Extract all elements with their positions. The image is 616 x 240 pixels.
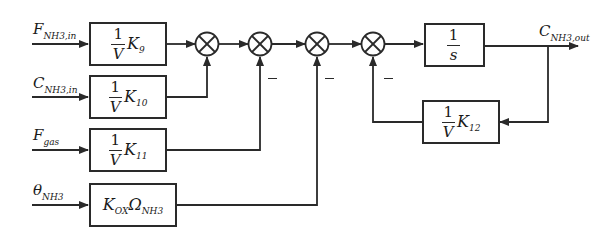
block-k10: 1V K10 bbox=[89, 75, 167, 119]
block-integrator: 1s bbox=[424, 23, 485, 67]
summing-junction-4 bbox=[362, 33, 385, 56]
label-c-nh3-out: CNH3,out bbox=[539, 24, 590, 43]
summing-junction-3 bbox=[306, 33, 329, 56]
block-kox-omega: KOXΩNH3 bbox=[89, 183, 177, 227]
label-theta-nh3: θNH3 bbox=[33, 183, 63, 202]
block-k11: 1V K11 bbox=[89, 128, 167, 172]
summing-junction-1 bbox=[196, 33, 219, 56]
summing-junction-2 bbox=[249, 33, 272, 56]
block-k12: 1V K12 bbox=[422, 100, 500, 144]
label-f-gas: Fgas bbox=[33, 128, 59, 147]
label-f-nh3-in: FNH3,in bbox=[33, 22, 76, 41]
minus-sign-sum3 bbox=[325, 78, 334, 79]
minus-sign-sum4 bbox=[384, 78, 393, 79]
minus-sign-sum2 bbox=[268, 78, 277, 79]
block-k9: 1V K9 bbox=[89, 22, 167, 66]
label-c-nh3-in: CNH3,in bbox=[33, 76, 77, 95]
